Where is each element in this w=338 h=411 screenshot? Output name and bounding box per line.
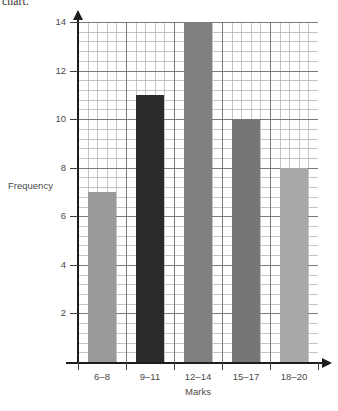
y-tick-label-14: 14 <box>26 16 66 27</box>
y-tick-label-2: 2 <box>26 307 66 318</box>
bar-12–14 <box>184 22 212 362</box>
y-tick-12 <box>70 71 78 72</box>
x-tick-5 <box>318 362 319 370</box>
x-axis-title: Marks <box>78 386 318 397</box>
x-category-label-12–14: 12–14 <box>174 371 222 382</box>
x-axis-arrow-icon <box>322 358 332 368</box>
x-category-label-9–11: 9–11 <box>126 371 174 382</box>
x-tick-1 <box>126 362 127 370</box>
y-tick-2 <box>70 313 78 314</box>
x-tick-4 <box>270 362 271 370</box>
y-tick-4 <box>70 265 78 266</box>
y-tick-14 <box>70 22 78 23</box>
y-tick-6 <box>70 216 78 217</box>
x-category-label-18–20: 18–20 <box>270 371 318 382</box>
x-category-label-15–17: 15–17 <box>222 371 270 382</box>
bar-6–8 <box>88 192 116 362</box>
y-tick-label-12: 12 <box>26 65 66 76</box>
bar-chart: 2468101214 6–89–1112–1415–1718–20 Freque… <box>0 0 338 411</box>
y-tick-label-4: 4 <box>26 259 66 270</box>
y-axis-title: Frequency <box>8 180 53 191</box>
x-category-label-6–8: 6–8 <box>78 371 126 382</box>
y-tick-label-6: 6 <box>26 210 66 221</box>
y-tick-label-10: 10 <box>26 113 66 124</box>
x-tick-2 <box>174 362 175 370</box>
y-tick-label-8: 8 <box>26 162 66 173</box>
y-tick-10 <box>70 119 78 120</box>
bar-9–11 <box>136 95 164 362</box>
bar-18–20 <box>280 168 308 362</box>
x-tick-3 <box>222 362 223 370</box>
y-tick-8 <box>70 168 78 169</box>
y-axis-arrow-icon <box>73 10 83 20</box>
x-axis-line <box>66 362 324 364</box>
x-tick-0 <box>78 362 79 370</box>
bar-15–17 <box>232 119 260 362</box>
